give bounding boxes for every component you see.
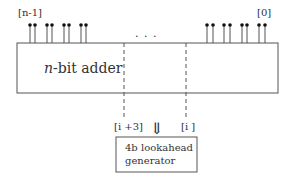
adder-label: n-bit adder [44, 60, 123, 76]
pin-dot [84, 23, 88, 27]
adder-diagram: [n-1] [0] . . . n-bit adder [i +3] [i ] … [0, 0, 293, 183]
msb-label: [n-1] [18, 7, 42, 18]
pin-dot [50, 23, 54, 27]
ellipsis: . . . [135, 27, 157, 40]
pin-dot [205, 23, 209, 27]
pin-dot [33, 23, 37, 27]
pin-dot [62, 23, 66, 27]
adder-label-var: n [44, 60, 53, 76]
down-double-arrow-icon: ⇓ [150, 119, 163, 138]
lookahead-line2: generator [125, 155, 175, 166]
pin-dot [222, 23, 226, 27]
adder-label-rest: -bit adder [53, 60, 123, 76]
pin-dot [79, 23, 83, 27]
pin-dot [67, 23, 71, 27]
group-lower-label: [i ] [181, 121, 195, 132]
pin-dot [263, 23, 267, 27]
pin-dot [228, 23, 232, 27]
pin-dot [211, 23, 215, 27]
lookahead-line1: 4b lookahead [125, 142, 194, 153]
pin-dot [245, 23, 249, 27]
pin-dot [28, 23, 32, 27]
pin-dot [45, 23, 49, 27]
group-upper-label: [i +3] [114, 121, 143, 132]
pin-dot [240, 23, 244, 27]
pin-dot [257, 23, 261, 27]
lsb-label: [0] [257, 7, 271, 18]
